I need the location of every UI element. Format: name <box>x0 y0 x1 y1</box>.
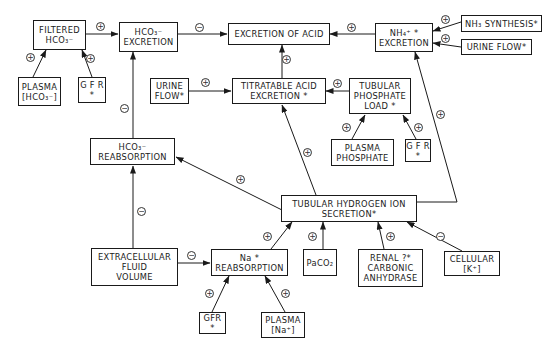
node-label: Na * <box>240 253 259 263</box>
plus-sign-icon: + <box>436 110 445 119</box>
node-urine-flow-right: URINE FLOW* <box>461 39 532 55</box>
node-label: CARBONIC <box>367 263 413 273</box>
node-label: EXCRETION <box>379 38 429 48</box>
node-label: PLASMA <box>22 82 57 92</box>
node-label: VOLUME <box>116 272 153 282</box>
edge-ca-to-h-ion <box>378 222 384 249</box>
node-label: [HCO₃⁻] <box>22 92 57 102</box>
edge-urine-flow-to-nh4 <box>433 43 461 47</box>
node-label: HCO₃⁻ <box>46 35 74 45</box>
node-label: PHOSPHATE <box>336 153 388 163</box>
node-label: FLOW* <box>155 91 184 101</box>
node-label: [Na⁺] <box>271 325 295 335</box>
node-label: CELLULAR <box>450 254 495 264</box>
node-plasma-na: PLASMA [Na⁺] <box>261 312 305 338</box>
node-label: NH₄⁺ * <box>390 28 419 38</box>
minus-sign-icon: − <box>137 207 146 216</box>
node-label: REABSORPTION <box>98 152 167 162</box>
node-hco3-excretion: HCO₃⁻ EXCRETION <box>119 22 178 52</box>
node-label: RENAL ?* <box>370 253 411 263</box>
node-label: G F R <box>406 141 430 151</box>
plus-sign-icon: + <box>441 15 450 24</box>
node-plasma-hco3: PLASMA [HCO₃⁻] <box>18 77 61 106</box>
plus-sign-icon: + <box>303 148 312 157</box>
node-label: LOAD * <box>364 101 395 111</box>
node-label: TUBULAR <box>359 81 400 91</box>
plus-sign-icon: + <box>342 123 351 132</box>
node-plasma-phosphate: PLASMA PHOSPHATE <box>331 139 394 166</box>
node-label: EXCRETION <box>123 37 173 47</box>
minus-sign-icon: − <box>187 251 196 260</box>
plus-sign-icon: + <box>236 175 245 184</box>
plus-sign-icon: + <box>308 232 317 241</box>
plus-sign-icon: + <box>347 23 356 32</box>
node-label: PLASMA <box>265 315 300 325</box>
edge-k-to-h-ion <box>407 222 462 251</box>
node-label: SECRETION* <box>322 209 377 219</box>
node-tubular-h-ion: TUBULAR HYDROGEN ION SECRETION* <box>281 195 417 222</box>
plus-sign-icon: + <box>441 34 450 43</box>
plus-sign-icon: + <box>263 232 272 241</box>
node-label: HCO₃⁻ <box>119 142 147 152</box>
plus-sign-icon: + <box>26 53 35 62</box>
node-label: G F R <box>80 80 104 90</box>
node-label: PLASMA <box>345 143 380 153</box>
edge-gfr-to-na <box>212 276 229 312</box>
node-label: TUBULAR HYDROGEN ION <box>292 199 406 209</box>
plus-sign-icon: + <box>386 232 395 241</box>
node-hco3-reabsorption: HCO₃⁻ REABSORPTION <box>90 138 175 165</box>
minus-sign-icon: − <box>120 104 129 113</box>
node-label: FLUID <box>122 262 147 272</box>
node-label: TITRATABLE ACID <box>241 81 317 91</box>
node-label: ANHYDRASE <box>364 273 418 283</box>
plus-sign-icon: + <box>333 79 342 88</box>
node-label: EXCRETION * <box>250 91 307 101</box>
edge-plasma-hco3-to-filtered <box>33 50 46 77</box>
plus-sign-icon: + <box>205 289 214 298</box>
node-label: REABSORPTION <box>215 263 284 273</box>
node-excretion-of-acid: EXCRETION OF ACID <box>228 23 330 45</box>
plus-sign-icon: + <box>414 123 423 132</box>
node-label: * <box>90 90 94 100</box>
node-gfr-top: G F R * <box>78 77 106 103</box>
plus-sign-icon: + <box>201 78 210 87</box>
edge-plasma-phosphate-to-load <box>352 115 365 139</box>
node-urine-flow-mid: URINE FLOW* <box>150 78 189 104</box>
node-label: PHOSPHATE <box>354 91 406 101</box>
node-nh4-excretion: NH₄⁺ * EXCRETION <box>375 23 433 52</box>
node-label: URINE FLOW* <box>467 42 527 52</box>
node-label: PaCO₂ <box>307 258 334 268</box>
node-gfr-bottom: GFR * <box>199 312 226 334</box>
node-filtered-hco3: FILTERED HCO₃⁻ <box>33 20 86 50</box>
node-extracellular-fluid: EXTRACELLULAR FLUID VOLUME <box>91 248 178 286</box>
node-label: [K⁺] <box>463 264 481 274</box>
plus-sign-icon: + <box>96 22 105 31</box>
node-label: EXCRETION OF ACID <box>234 29 323 39</box>
node-label: EXTRACELLULAR <box>98 252 171 262</box>
edge-na-to-h-ion <box>271 222 292 249</box>
node-label: GFR <box>204 313 222 323</box>
node-label: URINE <box>156 81 183 91</box>
node-gfr-mid: G F R * <box>405 139 431 162</box>
node-label: HCO₃⁻ <box>135 27 163 37</box>
plus-sign-icon: + <box>281 289 290 298</box>
node-nh3-synthesis: NH₃ SYNTHESIS* <box>461 15 542 32</box>
plus-sign-icon: + <box>86 54 95 63</box>
node-label: FILTERED <box>39 25 80 35</box>
node-titratable-acid: TITRATABLE ACID EXCRETION * <box>232 78 326 104</box>
node-na-reabsorption: Na * REABSORPTION <box>211 249 288 276</box>
node-paco2: PaCO₂ <box>303 249 337 276</box>
node-label: * <box>416 151 420 161</box>
node-cellular-k: CELLULAR [K⁺] <box>444 251 500 276</box>
node-label: * <box>210 323 214 333</box>
node-renal-carbonic-anhydrase: RENAL ?* CARBONIC ANHYDRASE <box>358 249 423 287</box>
minus-sign-icon: − <box>436 232 445 241</box>
node-tubular-phosphate: TUBULAR PHOSPHATE LOAD * <box>349 78 411 114</box>
edge-h-ion-to-reabsorption <box>176 157 282 210</box>
minus-sign-icon: − <box>195 23 204 32</box>
node-label: NH₃ SYNTHESIS* <box>465 19 538 29</box>
plus-sign-icon: + <box>282 55 291 64</box>
